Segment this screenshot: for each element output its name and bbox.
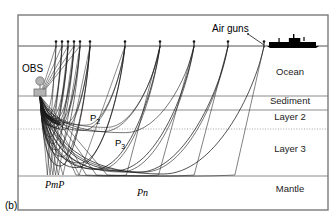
layer-label-layer2: Layer 2 xyxy=(274,111,306,122)
shot-point-marker xyxy=(263,40,266,43)
air-guns-pointer-dot xyxy=(247,33,249,35)
shot-point-marker xyxy=(67,40,70,43)
panel-label: (b) xyxy=(5,200,17,211)
shot-point-marker xyxy=(55,40,58,43)
figure-panel: Air guns OBS OceanSedimentLayer 2Layer 3… xyxy=(0,0,335,224)
shot-point-marker xyxy=(124,40,127,43)
shot-point-marker xyxy=(89,40,92,43)
obs-float-icon xyxy=(36,77,44,85)
phase-label-pn: Pn xyxy=(136,187,148,198)
ship-deck xyxy=(269,42,316,46)
shot-point-marker xyxy=(61,40,64,43)
shot-point-marker xyxy=(227,40,230,43)
layer-label-ocean: Ocean xyxy=(276,66,304,77)
shot-point-marker xyxy=(193,40,196,43)
shot-point-marker xyxy=(159,40,162,43)
ship-superstructure xyxy=(289,38,300,42)
shot-point-marker xyxy=(73,40,76,43)
ship-antenna xyxy=(303,37,304,41)
obs-label-group: OBS xyxy=(22,63,43,74)
air-guns-label: Air guns xyxy=(212,23,249,34)
ship-foremast xyxy=(278,38,279,42)
layer-label-layer3: Layer 3 xyxy=(274,143,306,154)
seismic-ray-diagram: Air guns OBS OceanSedimentLayer 2Layer 3… xyxy=(0,0,335,224)
layer-label-mantle: Mantle xyxy=(276,183,305,194)
obs-label: OBS xyxy=(22,63,43,74)
phase-label-pmp: PmP xyxy=(44,179,64,190)
obs-body-icon xyxy=(34,89,46,96)
ship-mast xyxy=(293,34,294,39)
layer-label-sediment: Sediment xyxy=(270,95,310,106)
ship-hull xyxy=(267,46,319,48)
shot-point-marker xyxy=(79,40,82,43)
